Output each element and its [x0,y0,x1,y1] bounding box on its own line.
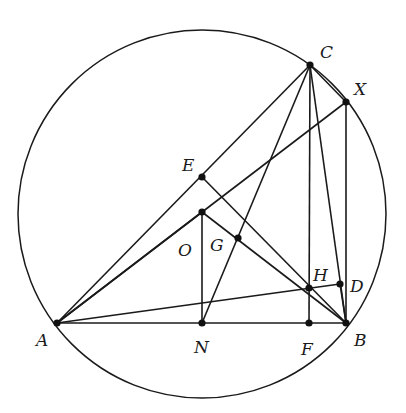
label-n: N [193,337,210,357]
point-d [336,280,343,287]
label-f: F [300,339,314,359]
point-labels: ABCXEOGHDNF [34,42,367,359]
label-d: D [349,276,364,296]
segment-ac [57,65,310,323]
point-f [305,319,312,326]
segment-cx [310,65,346,102]
label-b: B [353,330,367,350]
label-e: E [181,155,195,175]
point-o [198,208,205,215]
point-n [198,319,205,326]
point-x [342,98,349,105]
label-a: A [34,330,48,350]
point-b [342,319,349,326]
point-a [53,319,60,326]
label-o: O [178,240,192,260]
point-c [306,61,313,68]
label-x: X [352,79,367,99]
point-e [198,173,205,180]
label-g: G [210,235,224,255]
segment-cf [309,65,310,323]
segment-eb [202,177,346,323]
point-h [305,284,312,291]
label-h: H [312,265,329,285]
point-g [234,234,241,241]
label-c: C [320,42,333,62]
segments [57,65,346,323]
geometry-diagram: ABCXEOGHDNF [0,0,406,413]
